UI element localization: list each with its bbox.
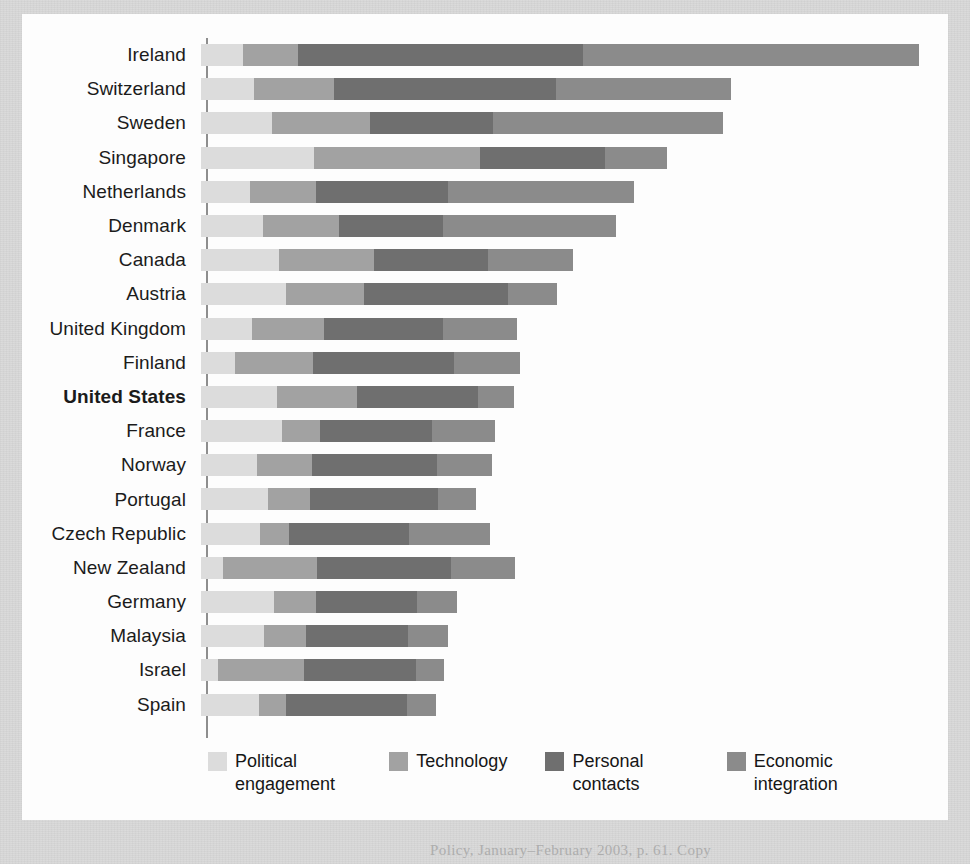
category-label: Canada [22,249,200,271]
bar-segment-political-engagement [201,215,263,237]
bar-rows: IrelandSwitzerlandSwedenSingaporeNetherl… [22,38,948,722]
bar-segment-economic-integration [416,659,444,681]
stacked-bar [201,44,919,66]
bar-segment-personal-contacts [334,78,556,100]
legend-item-political-engagement: Political engagement [208,750,351,795]
bar-segment-economic-integration [437,454,492,476]
bar-segment-technology [279,249,374,271]
bar-track [200,448,948,482]
bar-segment-personal-contacts [374,249,488,271]
bar-row: Israel [22,653,948,687]
bar-segment-political-engagement [201,454,257,476]
bar-segment-political-engagement [201,659,218,681]
category-label: United States [22,386,200,408]
bar-track [200,585,948,619]
bar-segment-personal-contacts [364,283,508,305]
bar-segment-technology [274,591,316,613]
bar-track [200,106,948,140]
bar-segment-economic-integration [448,181,634,203]
bar-row: United States [22,380,948,414]
stacked-bar [201,215,616,237]
bar-row: Germany [22,585,948,619]
bar-segment-political-engagement [201,386,277,408]
stacked-bar [201,523,490,545]
bar-segment-economic-integration [443,215,616,237]
bar-segment-technology [268,488,310,510]
bar-track [200,346,948,380]
category-label: Austria [22,283,200,305]
bar-segment-technology [257,454,312,476]
bar-segment-technology [243,44,298,66]
legend-swatch-icon [208,752,227,771]
bar-row: Spain [22,688,948,722]
bar-segment-political-engagement [201,488,268,510]
bar-segment-economic-integration [408,625,448,647]
bar-segment-political-engagement [201,112,272,134]
category-label: Norway [22,454,200,476]
figure-screenshot: IrelandSwitzerlandSwedenSingaporeNetherl… [0,0,970,864]
bar-segment-political-engagement [201,147,314,169]
bar-segment-political-engagement [201,523,260,545]
bar-segment-technology [218,659,304,681]
stacked-bar [201,352,520,374]
bar-row: Austria [22,277,948,311]
bar-segment-technology [277,386,357,408]
stacked-bar [201,420,495,442]
stacked-bar [201,454,492,476]
legend-swatch-icon [727,752,746,771]
bar-track [200,38,948,72]
bar-row: Czech Republic [22,517,948,551]
stacked-bar [201,78,731,100]
bar-track [200,688,948,722]
bar-segment-personal-contacts [339,215,443,237]
bar-segment-technology [282,420,320,442]
bar-row: Canada [22,243,948,277]
stacked-bar [201,386,514,408]
stacked-bar [201,659,444,681]
bar-segment-technology [286,283,364,305]
category-label: Portugal [22,489,200,511]
stacked-bar [201,591,457,613]
bar-segment-technology [263,215,339,237]
stacked-bar [201,557,515,579]
bar-track [200,175,948,209]
bar-segment-economic-integration [443,318,517,340]
bar-segment-personal-contacts [298,44,583,66]
bar-row: United Kingdom [22,312,948,346]
bar-row: Sweden [22,106,948,140]
legend-item-economic-integration: Economic integration [727,750,870,795]
bar-segment-political-engagement [201,352,235,374]
legend-label: Economic integration [754,750,870,795]
category-label: Israel [22,659,200,681]
bar-segment-personal-contacts [289,523,409,545]
bar-segment-economic-integration [432,420,495,442]
legend-swatch-icon [545,752,564,771]
stacked-bar [201,181,634,203]
bar-row: Portugal [22,482,948,516]
bar-track [200,141,948,175]
bar-track [200,277,948,311]
bar-segment-economic-integration [583,44,919,66]
chart-panel: IrelandSwitzerlandSwedenSingaporeNetherl… [22,14,948,820]
bar-segment-economic-integration [605,147,667,169]
bar-track [200,619,948,653]
bar-segment-economic-integration [508,283,557,305]
legend-label: Technology [416,750,507,773]
bar-segment-political-engagement [201,591,274,613]
chart-legend: Political engagementTechnologyPersonal c… [208,750,908,795]
bar-segment-technology [314,147,480,169]
bar-segment-political-engagement [201,249,279,271]
bar-segment-technology [250,181,316,203]
bar-segment-political-engagement [201,44,243,66]
category-label: Switzerland [22,78,200,100]
stacked-bar [201,488,476,510]
bar-row: Switzerland [22,72,948,106]
bar-segment-economic-integration [454,352,520,374]
legend-label: Personal contacts [572,750,688,795]
bar-segment-technology [252,318,324,340]
bar-segment-technology [254,78,334,100]
bar-segment-personal-contacts [357,386,478,408]
bar-segment-personal-contacts [313,352,454,374]
stacked-bar [201,112,723,134]
bar-segment-personal-contacts [306,625,408,647]
